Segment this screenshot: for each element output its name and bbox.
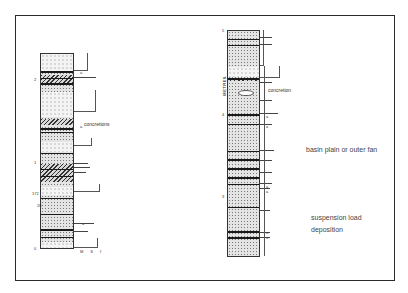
grain-profile	[260, 66, 280, 78]
bed-marker: a	[80, 124, 82, 129]
environment-text: basin plain or outer fan	[306, 146, 377, 153]
side-label-20: 20	[37, 203, 41, 208]
bed-marker: a	[80, 70, 82, 75]
right-log-column	[227, 30, 260, 257]
left-scale-tick-1: 1	[34, 160, 36, 165]
process-text-line2: deposition	[311, 226, 343, 233]
left-log-column	[40, 53, 74, 249]
grain-profile	[74, 53, 88, 71]
process-text-line1: suspension load	[311, 214, 362, 221]
concretion-label: concretion	[268, 87, 291, 93]
grain-profile	[74, 138, 92, 146]
side-label-172: 172	[32, 191, 39, 196]
left-scale-tick-2: 2	[34, 77, 36, 82]
grain-profile	[260, 30, 264, 66]
grain-axis-m: M	[80, 249, 83, 254]
right-scale-tick-3: 3	[222, 194, 224, 199]
bed-marker: a	[82, 221, 84, 226]
right-scale-tick-5: 5	[222, 28, 224, 33]
bed-marker: a	[266, 235, 268, 240]
grain-profile	[74, 90, 96, 112]
bed-marker: a	[266, 189, 268, 194]
bed-marker: a	[266, 114, 268, 119]
right-scale-tick-4: 4	[222, 112, 224, 117]
left-scale-tick-0: 0	[34, 246, 36, 251]
bed-marker: a	[266, 124, 268, 129]
metres-axis-title: METRES	[222, 76, 227, 96]
grain-axis-s: S	[90, 249, 93, 254]
grain-size-axis: M S f	[80, 249, 101, 254]
grain-axis-f: f	[100, 249, 101, 254]
grain-profile	[74, 238, 98, 248]
grain-profile	[74, 184, 100, 192]
concretions-label: concretions	[84, 121, 110, 127]
